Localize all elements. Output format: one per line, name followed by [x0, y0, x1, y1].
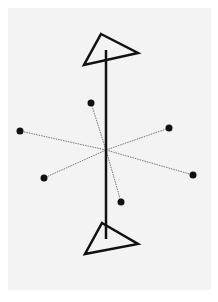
endpoint-dot	[166, 125, 173, 132]
bottom-triangle	[85, 223, 138, 254]
endpoint-dot	[41, 175, 48, 182]
endpoint-dot	[17, 128, 24, 135]
dashed-spoke	[106, 128, 169, 150]
top-triangle	[84, 34, 138, 65]
dashed-spoke	[44, 150, 106, 178]
dashed-spoke	[91, 103, 106, 150]
star-axis-diagram	[0, 0, 218, 302]
dashed-spoke	[106, 150, 121, 202]
endpoint-dot	[190, 172, 197, 179]
dashed-spoke	[20, 131, 106, 150]
endpoint-dot	[88, 100, 95, 107]
endpoint-dot	[118, 199, 125, 206]
dashed-spoke	[106, 150, 193, 175]
